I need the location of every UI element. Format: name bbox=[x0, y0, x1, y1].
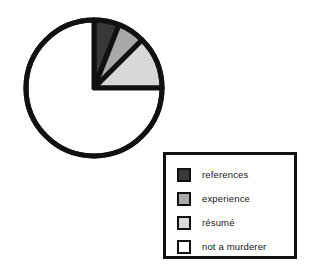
legend-label-resume: résumé bbox=[202, 218, 235, 228]
legend-swatch-not-a-murderer bbox=[177, 240, 191, 254]
legend-item-references[interactable]: references bbox=[177, 163, 294, 186]
pie-chart-figure: references experience résumé not a murde… bbox=[0, 0, 314, 277]
legend-item-experience[interactable]: experience bbox=[177, 187, 294, 210]
legend-swatch-references bbox=[177, 168, 191, 182]
legend-list: references experience résumé not a murde… bbox=[166, 155, 294, 256]
legend-swatch-resume bbox=[177, 216, 191, 230]
legend-swatch-experience bbox=[177, 192, 191, 206]
legend: references experience résumé not a murde… bbox=[163, 152, 297, 259]
legend-label-not-a-murderer: not a murderer bbox=[202, 242, 266, 252]
legend-label-experience: experience bbox=[202, 194, 250, 204]
legend-item-not-a-murderer[interactable]: not a murderer bbox=[177, 235, 294, 258]
legend-item-resume[interactable]: résumé bbox=[177, 211, 294, 234]
pie-svg bbox=[18, 12, 170, 164]
pie-chart-graphic bbox=[18, 12, 170, 164]
legend-label-references: references bbox=[202, 170, 248, 180]
